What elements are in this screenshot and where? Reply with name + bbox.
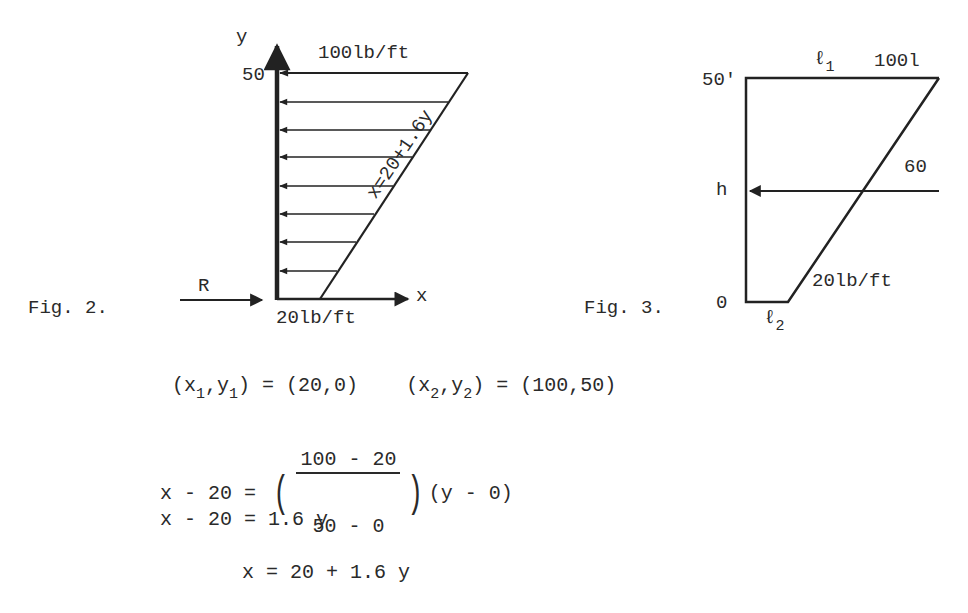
fig3-diagram	[746, 78, 939, 302]
fig2-reaction-label: R	[198, 277, 209, 296]
fig3-mid-load-label: 60	[904, 158, 927, 177]
equation-simplified: x - 20 = 1.6 y	[160, 510, 328, 530]
slope-fraction: 100 - 20 50 - 0	[296, 410, 400, 577]
fig3-h-tick: h	[716, 181, 727, 200]
fig3-l1-label: ℓ1	[814, 50, 834, 75]
fig2-diagram	[180, 46, 468, 300]
fig2-caption: Fig. 2.	[28, 299, 108, 318]
fig3-bottom-tick: 0	[716, 294, 727, 313]
fig3-caption: Fig. 3.	[584, 299, 664, 318]
fig2-x-label: x	[416, 287, 427, 306]
fig2-y-tick-50: 50	[242, 66, 265, 85]
equation-final: x = 20 + 1.6 y	[242, 563, 410, 583]
fig2-bottom-load-label: 20lb/ft	[276, 309, 356, 328]
equation-slope: x - 20 = ( 100 - 20 50 - 0 ) (y - 0)	[160, 410, 513, 577]
fig3-top-load-label: 100l	[874, 52, 920, 71]
fig2-y-label: y	[236, 28, 247, 47]
fig3-l2-label: ℓ2	[764, 309, 784, 334]
fig3-top-tick: 50'	[702, 71, 736, 90]
fig3-bottom-load-label: 20lb/ft	[812, 272, 892, 291]
equation-points: (x1,y1) = (20,0) (x2,y2) = (100,50)	[148, 356, 616, 402]
fig2-top-load-label: 100lb/ft	[318, 44, 409, 63]
